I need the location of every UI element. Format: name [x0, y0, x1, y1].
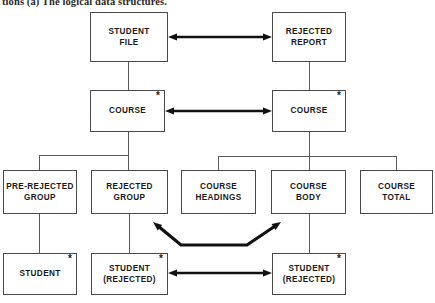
node-rejected-group[interactable]: REJECTEDGROUP — [91, 170, 168, 214]
node-pre-rejected-group[interactable]: PRE-REJECTEDGROUP — [3, 170, 77, 214]
arrow-shaft — [159, 226, 274, 245]
wire-pre-rejected-group-up — [39, 155, 40, 170]
multiplicity-star-icon: * — [68, 255, 72, 263]
node-course-right[interactable]: COURSE* — [272, 90, 346, 132]
node-label: TOTAL — [382, 192, 410, 204]
node-rejected-report[interactable]: REJECTEDREPORT — [272, 12, 346, 62]
wire-rejected-to-student — [129, 214, 130, 253]
node-student-file[interactable]: STUDENTFILE — [90, 12, 168, 62]
node-label: STUDENT — [108, 26, 149, 38]
node-student-rejected-r[interactable]: STUDENT(REJECTED)* — [272, 253, 346, 295]
node-label: PRE-REJECTED — [6, 181, 73, 193]
arrow-student-rejected-pair — [168, 269, 272, 276]
wire-rejected-report-down — [309, 62, 310, 90]
node-student[interactable]: STUDENT* — [3, 253, 77, 295]
node-student-rejected-l[interactable]: STUDENT(REJECTED)* — [91, 253, 168, 295]
arrow-rejected-group-course-body — [153, 222, 281, 245]
node-label: REJECTED — [286, 26, 332, 38]
arrow-head-start — [165, 107, 174, 114]
arrow-group — [153, 33, 281, 276]
wire-course-right-down — [309, 132, 310, 170]
figure-caption: tions (a) The logical data structures. — [2, 0, 302, 7]
node-course-headings[interactable]: COURSEHEADINGS — [181, 170, 256, 214]
multiplicity-star-icon: * — [337, 255, 341, 263]
arrow-head-end — [263, 107, 272, 114]
node-label: REJECTED — [106, 181, 152, 193]
wire-course-headings-up — [218, 156, 219, 170]
node-label: STUDENT — [109, 263, 150, 275]
node-label: COURSE — [290, 105, 327, 117]
node-label: COURSE — [200, 181, 237, 193]
wire-student-file-down — [128, 62, 129, 90]
node-label: COURSE — [290, 181, 327, 193]
arrow-head-end — [272, 222, 281, 230]
node-label: STUDENT — [288, 263, 329, 275]
arrow-head-end — [263, 269, 272, 276]
node-label: (REJECTED) — [103, 274, 156, 286]
node-label: FILE — [119, 37, 138, 49]
arrow-head-start — [153, 222, 162, 230]
node-course-total[interactable]: COURSETOTAL — [360, 170, 433, 214]
wire-course-left-bus — [39, 155, 128, 156]
wire-course-left-down — [128, 132, 129, 170]
wire-pre-rejected-to-student — [39, 214, 40, 253]
node-label: COURSE — [378, 181, 415, 193]
node-label: COURSE — [109, 105, 146, 117]
arrow-head-start — [168, 33, 177, 40]
arrow-head-start — [168, 269, 177, 276]
wire-course-right-bus — [218, 156, 396, 157]
node-course-left[interactable]: COURSE* — [90, 90, 165, 132]
node-label: (REJECTED) — [283, 274, 336, 286]
arrow-course-course — [165, 107, 272, 114]
diagram-page: tions (a) The logical data structures. S… — [0, 0, 435, 303]
node-label: HEADINGS — [195, 192, 241, 204]
wire-course-body-to-student — [309, 214, 310, 253]
multiplicity-star-icon: * — [156, 92, 160, 100]
multiplicity-star-icon: * — [159, 255, 163, 263]
arrow-head-end — [263, 33, 272, 40]
node-label: GROUP — [24, 192, 56, 204]
node-label: GROUP — [114, 192, 146, 204]
node-course-body[interactable]: COURSEBODY — [271, 170, 346, 214]
wire-course-total-up — [396, 156, 397, 170]
node-label: BODY — [296, 192, 321, 204]
node-label: REPORT — [291, 37, 327, 49]
arrow-student-file-rejected-report — [168, 33, 272, 40]
multiplicity-star-icon: * — [337, 92, 341, 100]
node-label: STUDENT — [19, 268, 60, 280]
